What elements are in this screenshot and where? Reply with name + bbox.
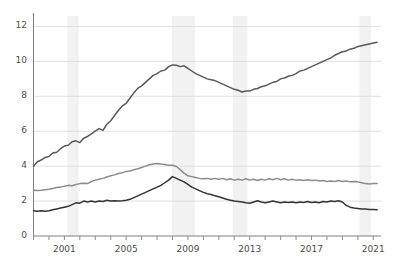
x-axis-tick-label: 2005 (106, 245, 146, 254)
y-axis-tick-label: 4 (2, 161, 27, 170)
line-chart: 024681012 200120052009201320172021 (0, 0, 398, 272)
x-axis-tick-label: 2001 (44, 245, 84, 254)
series-line-series_middle (34, 164, 378, 191)
y-axis-tick-label: 12 (2, 21, 27, 30)
y-axis-tick-label: 8 (2, 91, 27, 100)
series-line-series_top (34, 42, 378, 166)
recession-band (359, 16, 371, 236)
gridlines (34, 26, 382, 236)
y-axis-tick-label: 0 (2, 231, 27, 240)
recession-bands (67, 16, 370, 236)
x-axis-tick-label: 2021 (353, 245, 393, 254)
y-axis-tick-label: 10 (2, 56, 27, 65)
x-axis-ticks (34, 236, 374, 240)
x-axis-tick-label: 2017 (292, 245, 332, 254)
data-series (34, 42, 378, 211)
recession-band (172, 16, 195, 236)
x-axis-tick-label: 2009 (168, 245, 208, 254)
y-axis-tick-label: 6 (2, 126, 27, 135)
y-axis-tick-label: 2 (2, 196, 27, 205)
chart-plot-area (0, 0, 398, 272)
x-axis-tick-label: 2013 (230, 245, 270, 254)
